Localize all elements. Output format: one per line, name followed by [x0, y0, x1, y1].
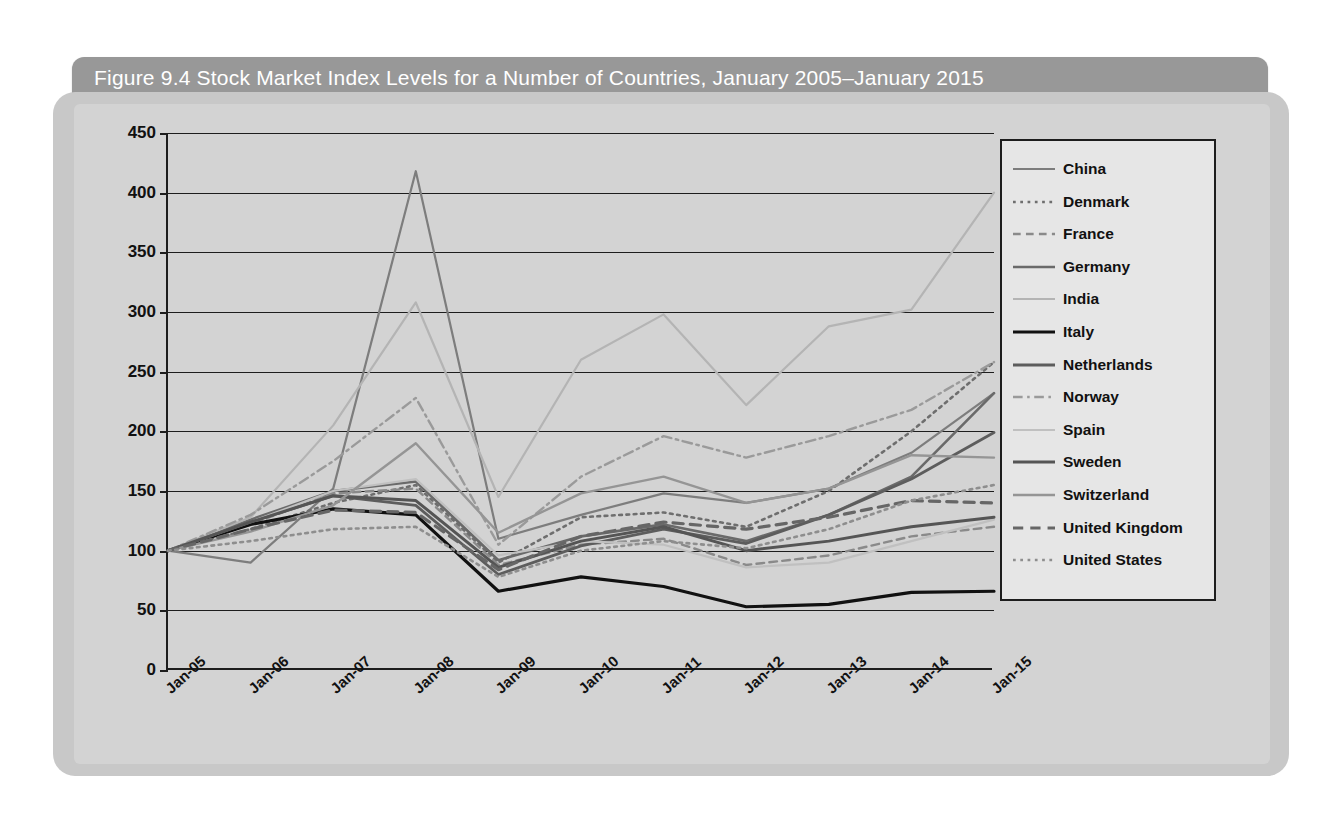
y-tick-mark — [160, 312, 168, 314]
legend-label: United Kingdom — [1063, 519, 1183, 537]
legend-swatch-icon — [1012, 552, 1056, 568]
y-axis-tick-label: 50 — [137, 600, 156, 620]
legend-label: China — [1063, 160, 1106, 178]
legend-label: Germany — [1063, 258, 1130, 276]
y-axis-tick-label: 350 — [128, 242, 156, 262]
y-axis-tick-label: 450 — [128, 123, 156, 143]
series-line-united-states — [168, 485, 994, 577]
legend-swatch-icon — [1012, 454, 1056, 470]
legend-item-spain[interactable]: Spain — [1012, 416, 1208, 444]
legend-label: Sweden — [1063, 453, 1122, 471]
y-axis-tick-label: 100 — [128, 541, 156, 561]
series-line-norway — [168, 362, 994, 551]
legend-item-switzerland[interactable]: Switzerland — [1012, 481, 1208, 509]
y-axis-tick-label: 200 — [128, 421, 156, 441]
series-line-netherlands — [168, 433, 994, 575]
legend-swatch-icon — [1012, 422, 1056, 438]
legend-item-germany[interactable]: Germany — [1012, 253, 1208, 281]
series-line-china — [168, 171, 994, 562]
series-line-italy — [168, 509, 994, 607]
legend-label: Italy — [1063, 323, 1094, 341]
legend-label: Denmark — [1063, 193, 1129, 211]
legend-item-china[interactable]: China — [1012, 155, 1208, 183]
legend-label: Spain — [1063, 421, 1105, 439]
y-tick-mark — [160, 252, 168, 254]
y-axis-tick-label: 400 — [128, 183, 156, 203]
legend-label: Norway — [1063, 388, 1119, 406]
y-tick-mark — [160, 670, 168, 672]
y-tick-mark — [160, 431, 168, 433]
legend-item-france[interactable]: France — [1012, 220, 1208, 248]
legend-swatch-icon — [1012, 161, 1056, 177]
y-tick-mark — [160, 193, 168, 195]
x-axis-labels: Jan-05Jan-06Jan-07Jan-08Jan-09Jan-10Jan-… — [166, 678, 996, 748]
legend-swatch-icon — [1012, 389, 1056, 405]
figure-container: Figure 9.4 Stock Market Index Levels for… — [0, 0, 1341, 820]
legend-item-sweden[interactable]: Sweden — [1012, 448, 1208, 476]
legend-item-italy[interactable]: Italy — [1012, 318, 1208, 346]
legend-swatch-icon — [1012, 259, 1056, 275]
legend-item-united-kingdom[interactable]: United Kingdom — [1012, 514, 1208, 542]
y-tick-mark — [160, 610, 168, 612]
legend-swatch-icon — [1012, 357, 1056, 373]
legend-swatch-icon — [1012, 194, 1056, 210]
y-axis-tick-label: 0 — [147, 660, 156, 680]
legend-label: India — [1063, 290, 1099, 308]
legend-item-india[interactable]: India — [1012, 285, 1208, 313]
chart-series-svg — [168, 133, 994, 670]
y-tick-mark — [160, 372, 168, 374]
y-tick-mark — [160, 133, 168, 135]
legend-label: Switzerland — [1063, 486, 1149, 504]
y-axis-tick-label: 250 — [128, 362, 156, 382]
y-axis-tick-label: 300 — [128, 302, 156, 322]
y-axis-labels: 050100150200250300350400450 — [100, 133, 156, 670]
legend-swatch-icon — [1012, 324, 1056, 340]
legend-item-norway[interactable]: Norway — [1012, 383, 1208, 411]
legend-swatch-icon — [1012, 291, 1056, 307]
legend-swatch-icon — [1012, 487, 1056, 503]
chart-legend[interactable]: ChinaDenmarkFranceGermanyIndiaItalyNethe… — [1000, 139, 1216, 601]
legend-label: United States — [1063, 551, 1162, 569]
legend-label: France — [1063, 225, 1114, 243]
y-tick-mark — [160, 491, 168, 493]
legend-item-netherlands[interactable]: Netherlands — [1012, 351, 1208, 379]
legend-item-denmark[interactable]: Denmark — [1012, 188, 1208, 216]
legend-label: Netherlands — [1063, 356, 1153, 374]
legend-item-united-states[interactable]: United States — [1012, 546, 1208, 574]
y-axis-tick-label: 150 — [128, 481, 156, 501]
legend-swatch-icon — [1012, 520, 1056, 536]
page-title: Figure 9.4 Stock Market Index Levels for… — [94, 66, 984, 90]
plot-area — [166, 133, 992, 670]
legend-swatch-icon — [1012, 226, 1056, 242]
